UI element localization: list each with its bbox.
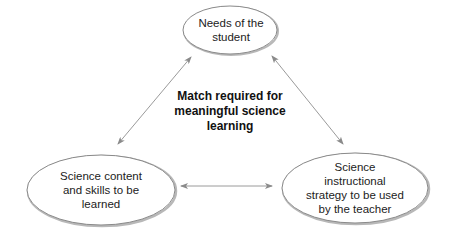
node-label-student: Needs of the student: [185, 16, 277, 44]
node-label-content: Science content and skills to be learned: [36, 169, 166, 211]
center-label: Match required for meaningful science le…: [155, 89, 305, 134]
node-label-strategy: Science instructional strategy to be use…: [290, 160, 420, 216]
